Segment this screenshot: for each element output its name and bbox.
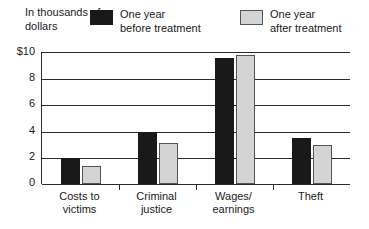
legend-label-after-treatment: One year after treatment [270, 8, 342, 35]
plot-area [41, 52, 350, 184]
x-axis-category-label: Costs to victims [41, 190, 118, 216]
legend-swatch-gray-icon [240, 10, 263, 25]
legend-item-before-treatment: One year before treatment [90, 8, 201, 35]
bar-after-group-0 [82, 166, 101, 184]
gridline [42, 105, 350, 106]
y-axis-tick-label: 8 [0, 72, 40, 83]
bar-after-group-3 [313, 145, 332, 184]
bar-chart-figure: In thousands of dollars One year before … [0, 0, 369, 229]
y-axis-tick-label: $10 [0, 46, 40, 57]
y-axis-tick-label: 2 [0, 151, 40, 162]
y-axis-tick-label: 0 [0, 177, 40, 188]
x-axis-category-label: Theft [272, 190, 349, 203]
bar-before-group-2 [215, 58, 234, 184]
y-axis-tick-label: 4 [0, 125, 40, 136]
legend-label-before-treatment: One year before treatment [120, 8, 201, 35]
legend-swatch-black-icon [90, 10, 113, 25]
x-axis-category-label: Wages/ earnings [195, 190, 272, 216]
bar-before-group-0 [61, 158, 80, 184]
bar-before-group-3 [292, 138, 311, 184]
bar-before-group-1 [138, 132, 157, 184]
y-axis-tick-label: 6 [0, 98, 40, 109]
bar-after-group-2 [236, 55, 255, 184]
x-axis-category-label: Criminal justice [118, 190, 195, 216]
gridline [42, 132, 350, 133]
bar-after-group-1 [159, 143, 178, 184]
gridline [42, 79, 350, 80]
legend-item-after-treatment: One year after treatment [240, 8, 342, 35]
